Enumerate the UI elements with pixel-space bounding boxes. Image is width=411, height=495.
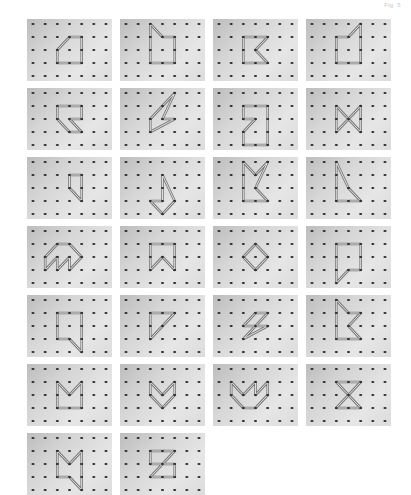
rubber-band-shape	[45, 244, 81, 270]
peg-icon	[161, 213, 164, 215]
peg-icon	[161, 368, 164, 370]
peg-icon	[92, 49, 95, 51]
peg-icon	[124, 325, 127, 327]
peg-icon	[92, 351, 95, 353]
peg-icon	[56, 269, 59, 271]
peg-icon	[335, 75, 338, 77]
geoboard-panel-8	[306, 88, 391, 150]
peg-icon	[371, 174, 374, 176]
peg-icon	[383, 420, 386, 422]
peg-icon	[371, 200, 374, 202]
peg-icon	[68, 230, 71, 232]
geoboard-figure	[120, 19, 205, 81]
peg-icon	[242, 299, 245, 301]
peg-icon	[80, 75, 83, 77]
peg-icon	[56, 230, 59, 232]
peg-icon	[197, 269, 200, 271]
peg-icon	[104, 256, 107, 258]
peg-icon	[137, 269, 140, 271]
peg-icon	[149, 381, 152, 383]
peg-icon	[173, 420, 176, 422]
peg-icon	[31, 381, 34, 383]
peg-icon	[323, 49, 326, 51]
peg-icon	[80, 407, 83, 409]
peg-icon	[266, 161, 269, 163]
peg-icon	[56, 36, 59, 38]
peg-icon	[310, 105, 313, 107]
rubber-band-shape	[150, 93, 174, 132]
peg-icon	[92, 368, 95, 370]
peg-icon	[371, 312, 374, 314]
peg-icon	[310, 131, 313, 133]
peg-icon	[31, 269, 34, 271]
peg-icon	[104, 312, 107, 314]
peg-icon	[68, 476, 71, 478]
peg-icon	[92, 243, 95, 245]
peg-icon	[92, 174, 95, 176]
peg-icon	[124, 230, 127, 232]
peg-icon	[310, 23, 313, 25]
peg-icon	[254, 381, 257, 383]
peg-icon	[31, 351, 34, 353]
peg-icon	[323, 420, 326, 422]
peg-icon	[173, 174, 176, 176]
peg-icon	[80, 62, 83, 64]
geoboard-panel-17	[27, 295, 112, 357]
geoboard-panel-9	[27, 157, 112, 219]
peg-icon	[383, 256, 386, 258]
peg-icon	[104, 62, 107, 64]
peg-icon	[266, 105, 269, 107]
peg-icon	[266, 62, 269, 64]
peg-icon	[68, 36, 71, 38]
peg-icon	[161, 325, 164, 327]
geoboard-panel-6	[120, 88, 205, 150]
peg-icon	[383, 394, 386, 396]
peg-icon	[44, 49, 47, 51]
peg-icon	[290, 213, 293, 215]
geoboard-figure	[213, 19, 298, 81]
peg-icon	[104, 75, 107, 77]
geoboard-panel-22	[120, 364, 205, 426]
peg-icon	[56, 381, 59, 383]
peg-icon	[44, 407, 47, 409]
peg-icon	[266, 92, 269, 94]
rubber-band-shape	[150, 24, 174, 63]
peg-icon	[266, 174, 269, 176]
peg-icon	[217, 256, 220, 258]
peg-icon	[230, 256, 233, 258]
peg-icon	[383, 200, 386, 202]
peg-icon	[80, 394, 83, 396]
geoboard-figure	[306, 226, 391, 288]
peg-icon	[359, 23, 362, 25]
peg-icon	[266, 282, 269, 284]
peg-icon	[266, 338, 269, 340]
peg-icon	[80, 200, 83, 202]
peg-icon	[173, 269, 176, 271]
peg-icon	[31, 450, 34, 452]
peg-icon	[254, 62, 257, 64]
peg-icon	[185, 200, 188, 202]
peg-icon	[371, 23, 374, 25]
peg-icon	[371, 368, 374, 370]
peg-icon	[335, 338, 338, 340]
peg-icon	[335, 105, 338, 107]
peg-icon	[137, 437, 140, 439]
peg-icon	[290, 92, 293, 94]
geoboard-panel-25	[27, 433, 112, 495]
peg-icon	[124, 243, 127, 245]
peg-icon	[383, 325, 386, 327]
peg-icon	[242, 256, 245, 258]
peg-icon	[44, 92, 47, 94]
peg-icon	[371, 213, 374, 215]
peg-icon	[197, 351, 200, 353]
peg-icon	[242, 92, 245, 94]
peg-icon	[124, 36, 127, 38]
peg-icon	[242, 312, 245, 314]
peg-icon	[323, 338, 326, 340]
peg-icon	[80, 92, 83, 94]
peg-icon	[335, 394, 338, 396]
peg-icon	[266, 269, 269, 271]
peg-icon	[266, 325, 269, 327]
peg-icon	[278, 62, 281, 64]
geoboard-panel-23	[213, 364, 298, 426]
